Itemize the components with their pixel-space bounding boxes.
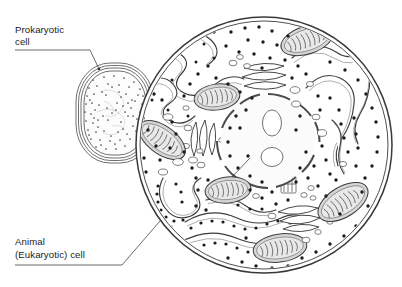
nucleolus-lower bbox=[261, 148, 283, 167]
eukaryotic-label-line2: (Eukaryotic) cell bbox=[15, 249, 85, 260]
cell-comparison-diagram: Prokaryotic cell Animal (Eukaryotic) cel… bbox=[0, 0, 402, 287]
cell-diagram-canvas: Prokaryotic cell Animal (Eukaryotic) cel… bbox=[0, 0, 402, 287]
prokaryotic-label-line1: Prokaryotic bbox=[15, 24, 64, 35]
eukaryotic-label-line1: Animal bbox=[15, 236, 45, 247]
nucleolus-upper bbox=[263, 110, 282, 136]
prokaryotic-label-line2: cell bbox=[15, 36, 30, 47]
